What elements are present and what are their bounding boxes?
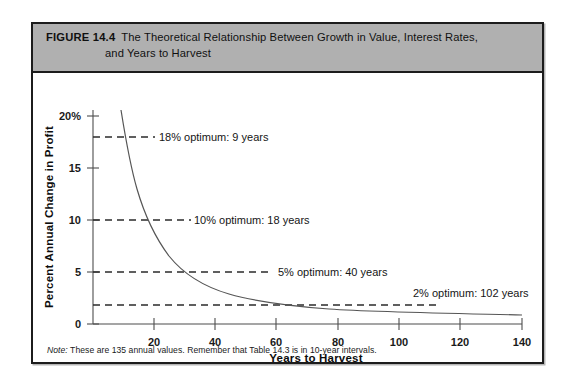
figure-number-label: FIGURE 14.4 (46, 31, 115, 43)
chart-plot-area: 20% 15 10 5 0 20 40 60 80 100 120 140 Ye… (33, 73, 542, 362)
y-tick-label-5: 5 (75, 266, 81, 278)
figure-caption-first-line: FIGURE 14.4The Theoretical Relationship … (46, 30, 528, 46)
figure-caption-bar: FIGURE 14.4The Theoretical Relationship … (33, 24, 542, 73)
figure-box: FIGURE 14.4The Theoretical Relationship … (31, 22, 544, 364)
y-tick-label-20: 20% (59, 110, 81, 122)
figure-caption-second-line: and Years to Harvest (46, 46, 528, 62)
figure-note-prefix: Note: (47, 345, 68, 355)
x-tick-label-120: 120 (451, 336, 469, 348)
growth-vs-years-line-chart: 20% 15 10 5 0 20 40 60 80 100 120 140 Ye… (33, 73, 542, 362)
figure-note-text: These are 135 annual values. Remember th… (70, 345, 377, 355)
annotation-10-percent: 10% optimum: 18 years (194, 214, 310, 226)
figure-note: Note: These are 135 annual values. Remem… (47, 345, 377, 355)
y-tick-label-15: 15 (69, 162, 81, 174)
y-tick-label-0: 0 (75, 318, 81, 330)
y-tick-label-10: 10 (69, 214, 81, 226)
annotation-18-percent: 18% optimum: 9 years (159, 131, 269, 143)
annotation-2-percent: 2% optimum: 102 years (413, 287, 529, 299)
y-axis-title: Percent Annual Change in Profit (43, 126, 55, 308)
x-tick-label-140: 140 (513, 336, 531, 348)
annotation-5-percent: 5% optimum: 40 years (278, 266, 388, 278)
figure-caption-text-line1: The Theoretical Relationship Between Gro… (115, 31, 478, 43)
x-tick-label-100: 100 (390, 336, 408, 348)
